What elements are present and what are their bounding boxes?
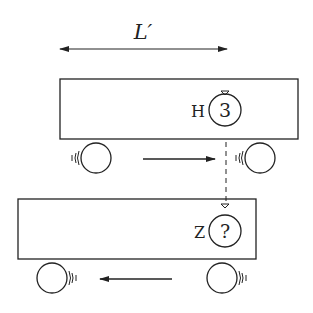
length-dimension: L′ bbox=[60, 20, 227, 49]
upper-car: 3 H bbox=[60, 79, 298, 173]
upper-clock: 3 H bbox=[191, 91, 241, 126]
lower-clock-label: Z bbox=[194, 223, 205, 242]
lower-clock-value: ? bbox=[220, 220, 230, 242]
length-label: L′ bbox=[133, 20, 153, 44]
lower-wheel-left bbox=[37, 263, 76, 293]
motion-lines-icon bbox=[242, 151, 244, 165]
relativity-diagram: L′ 3 H ? Z bbox=[0, 0, 313, 313]
upper-clock-label: H bbox=[191, 102, 205, 121]
clock-crown-icon bbox=[221, 204, 229, 208]
wheel-icon bbox=[81, 143, 111, 173]
motion-lines-icon bbox=[239, 271, 241, 285]
upper-wheel-left bbox=[72, 143, 111, 173]
lower-clock: ? Z bbox=[194, 204, 241, 247]
motion-lines-icon bbox=[69, 271, 71, 285]
motion-lines-icon bbox=[78, 151, 80, 165]
wheel-icon bbox=[37, 263, 67, 293]
lower-wheel-right bbox=[207, 263, 246, 293]
wheel-icon bbox=[207, 263, 237, 293]
upper-clock-value: 3 bbox=[219, 99, 231, 121]
lower-car: ? Z bbox=[18, 199, 256, 293]
wheel-icon bbox=[245, 143, 275, 173]
upper-car-body bbox=[60, 79, 298, 139]
upper-wheel-right bbox=[236, 143, 275, 173]
